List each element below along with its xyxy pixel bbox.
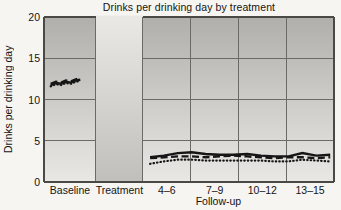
y-tick-label-20: 20: [6, 11, 40, 23]
x-section-label-1: Baseline: [50, 184, 90, 196]
plot-area: [0, 0, 341, 210]
chart-figure: Drinks per drinking day by treatment Dri…: [0, 0, 341, 210]
treatment-band: [96, 16, 143, 183]
y-tick-label-10: 10: [6, 94, 40, 106]
y-tick-label-5: 5: [6, 135, 40, 147]
x-section-label-3: 4–6: [158, 184, 176, 196]
x-section-label-6: 13–15: [295, 184, 324, 196]
x-section-label-5: 10–12: [248, 184, 277, 196]
y-tick-label-15: 15: [6, 52, 40, 64]
y-tick-label-0: 0: [6, 176, 40, 188]
x-axis-label: Follow-up: [196, 195, 242, 207]
x-section-label-2: Treatment: [96, 184, 143, 196]
